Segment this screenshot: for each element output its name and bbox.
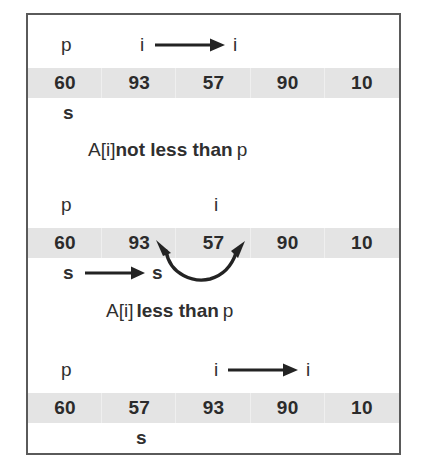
array-cell: 93 (176, 393, 250, 423)
array-cell-value: 10 (351, 232, 373, 254)
caption-1: A[i]not less thanp (88, 140, 247, 159)
right-arrow-icon-1 (155, 37, 227, 53)
index-marker-1-to: i (233, 35, 237, 54)
caption-1-suffix: p (237, 139, 248, 160)
array-cell-value: 57 (203, 72, 225, 94)
caption-1-bold: not less than (115, 139, 232, 160)
caption-2-prefix: A[i] (106, 300, 133, 321)
array-cell: 93 (102, 68, 176, 98)
s-marker-2-from: s (63, 263, 74, 282)
array-cell: 90 (251, 68, 325, 98)
caption-2-bold: less than (136, 300, 218, 321)
array-cell: 10 (325, 393, 399, 423)
s-marker-3: s (136, 428, 147, 447)
array-cell-value: 60 (54, 397, 76, 419)
array-cell: 90 (251, 393, 325, 423)
array-row-1: 60 93 57 90 10 (28, 68, 399, 98)
array-cell: 60 (28, 68, 102, 98)
array-cell: 60 (28, 228, 102, 258)
array-cell-value: 10 (351, 72, 373, 94)
caption-2: A[i]less thanp (106, 301, 233, 320)
array-cell-value: 10 (351, 397, 373, 419)
index-marker-3-to: i (306, 360, 310, 379)
caption-1-prefix: A[i] (88, 139, 115, 160)
array-cell-value: 60 (54, 72, 76, 94)
caption-2-suffix: p (223, 300, 234, 321)
pivot-marker-3: p (61, 360, 72, 379)
array-row-3: 60 57 93 90 10 (28, 393, 399, 423)
partition-step-3: p i i 60 57 93 90 10 s (28, 340, 399, 457)
array-cell-value: 90 (277, 72, 299, 94)
array-cell-value: 93 (203, 397, 225, 419)
index-marker-1-from: i (140, 35, 144, 54)
right-arrow-icon-3 (228, 362, 300, 378)
index-marker-3-from: i (214, 360, 218, 379)
array-cell-value: 93 (128, 72, 150, 94)
array-cell: 57 (176, 68, 250, 98)
s-marker-1: s (63, 103, 74, 122)
array-cell: 90 (251, 228, 325, 258)
array-cell: 60 (28, 393, 102, 423)
array-cell-value: 90 (277, 397, 299, 419)
pivot-marker-2: p (61, 195, 72, 214)
array-cell-value: 57 (128, 397, 150, 419)
pivot-marker-1: p (61, 35, 72, 54)
index-marker-2: i (214, 195, 218, 214)
array-cell: 57 (102, 393, 176, 423)
diagram-frame: p i i 60 93 57 90 10 s A[i] (26, 13, 401, 455)
partition-step-2: p i 60 93 57 90 10 s (28, 175, 399, 330)
array-cell: 10 (325, 228, 399, 258)
s-marker-2-to: s (152, 263, 163, 282)
array-cell-value: 93 (128, 232, 150, 254)
right-arrow-icon-2 (85, 265, 147, 281)
swap-double-headed-curved-arrow-icon (148, 237, 256, 289)
array-cell: 10 (325, 68, 399, 98)
array-cell-value: 60 (54, 232, 76, 254)
array-cell-value: 90 (277, 232, 299, 254)
partition-step-1: p i i 60 93 57 90 10 s A[i] (28, 15, 399, 165)
